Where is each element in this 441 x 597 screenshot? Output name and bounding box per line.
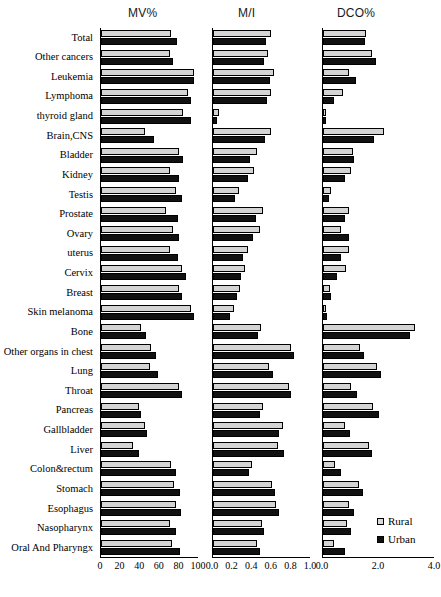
bar-urban bbox=[323, 528, 351, 535]
value-axis-dco: 0.02.04.0 bbox=[322, 560, 434, 576]
bar-rural bbox=[101, 481, 174, 488]
bar-rural bbox=[101, 344, 151, 351]
bar-urban bbox=[213, 254, 243, 261]
bar-row bbox=[101, 224, 198, 244]
bar-rural bbox=[323, 540, 334, 547]
bar-row bbox=[323, 87, 434, 107]
bar-rural bbox=[213, 187, 239, 194]
category-axis-labels: TotalOther cancersLeukemiaLymphomathyroi… bbox=[0, 28, 97, 558]
axis-tick-label: 100 bbox=[191, 560, 206, 571]
bar-row bbox=[101, 498, 198, 518]
bar-rural bbox=[101, 187, 176, 194]
axis-tick-label: 0.4 bbox=[245, 560, 258, 571]
bar-urban bbox=[323, 175, 345, 182]
bar-row bbox=[213, 244, 310, 264]
bar-rural bbox=[323, 50, 372, 57]
bar-urban bbox=[213, 38, 266, 45]
bar-row bbox=[213, 459, 310, 479]
bar-rural bbox=[323, 442, 369, 449]
axis-tick-label: 1.0 bbox=[304, 560, 317, 571]
bar-urban bbox=[323, 136, 374, 143]
bar-rural bbox=[323, 30, 366, 37]
bar-rural bbox=[101, 442, 133, 449]
bar-row bbox=[213, 185, 310, 205]
bar-rural bbox=[213, 128, 271, 135]
axis-tick-label: 60 bbox=[154, 560, 164, 571]
bar-rural bbox=[323, 501, 349, 508]
bar-rural bbox=[213, 501, 276, 508]
bar-row bbox=[101, 185, 198, 205]
bar-rural bbox=[213, 246, 248, 253]
bar-rural bbox=[323, 167, 351, 174]
bar-urban bbox=[101, 97, 191, 104]
bar-row bbox=[101, 67, 198, 87]
bar-urban bbox=[323, 58, 376, 65]
bar-urban bbox=[101, 528, 176, 535]
bar-urban bbox=[213, 411, 260, 418]
bar-row bbox=[101, 106, 198, 126]
bar-rural bbox=[323, 89, 343, 96]
bar-rural bbox=[101, 246, 170, 253]
bar-urban bbox=[213, 215, 256, 222]
legend-label-rural: Rural bbox=[388, 516, 412, 527]
bar-urban bbox=[213, 313, 230, 320]
bar-rural bbox=[101, 461, 171, 468]
bar-row bbox=[213, 126, 310, 146]
bar-urban bbox=[213, 391, 291, 398]
bar-rural bbox=[323, 69, 349, 76]
panel-title-mi: M/I bbox=[238, 6, 255, 20]
bar-rural bbox=[101, 69, 194, 76]
axis-tick-label: 0.0 bbox=[316, 560, 329, 571]
bar-row bbox=[323, 185, 434, 205]
category-label: Oral And Pharyngx bbox=[0, 538, 97, 558]
bar-row bbox=[101, 342, 198, 362]
bar-urban bbox=[101, 411, 141, 418]
bar-urban bbox=[101, 136, 154, 143]
bar-rural bbox=[101, 265, 182, 272]
bar-rural bbox=[213, 50, 268, 57]
plot-panel-mv bbox=[100, 28, 198, 558]
bar-rows-mi bbox=[213, 28, 310, 557]
bar-urban bbox=[323, 509, 354, 516]
bar-row bbox=[213, 67, 310, 87]
bar-rural bbox=[213, 167, 254, 174]
category-label: Total bbox=[0, 28, 97, 48]
category-label: thyroid gland bbox=[0, 107, 97, 127]
axis-tick-label: 4.0 bbox=[428, 560, 441, 571]
bar-row bbox=[323, 165, 434, 185]
bar-row bbox=[213, 224, 310, 244]
bar-urban bbox=[101, 313, 194, 320]
bar-row bbox=[213, 28, 310, 48]
bar-row bbox=[323, 106, 434, 126]
bar-row bbox=[101, 244, 198, 264]
axis-tick-label: 80 bbox=[173, 560, 183, 571]
bar-row bbox=[323, 283, 434, 303]
bar-urban bbox=[213, 97, 267, 104]
bar-row bbox=[213, 283, 310, 303]
category-label: uterus bbox=[0, 244, 97, 264]
bar-row bbox=[213, 400, 310, 420]
bar-urban bbox=[213, 136, 265, 143]
bar-rural bbox=[213, 403, 263, 410]
category-label: Colon&rectum bbox=[0, 460, 97, 480]
bar-row bbox=[213, 439, 310, 459]
bar-row bbox=[101, 28, 198, 48]
bar-rural bbox=[101, 422, 145, 429]
bar-row bbox=[213, 263, 310, 283]
bar-rural bbox=[101, 403, 139, 410]
category-label: Skin melanoma bbox=[0, 303, 97, 323]
bar-row bbox=[101, 420, 198, 440]
bar-rural bbox=[101, 109, 183, 116]
bar-row bbox=[101, 518, 198, 538]
bar-row bbox=[323, 498, 434, 518]
bar-rural bbox=[213, 540, 257, 547]
category-label: Brain,CNS bbox=[0, 126, 97, 146]
bar-row bbox=[213, 165, 310, 185]
bar-row bbox=[101, 361, 198, 381]
category-label: Lung bbox=[0, 362, 97, 382]
bar-rural bbox=[323, 481, 359, 488]
bar-row bbox=[213, 518, 310, 538]
bar-rural bbox=[323, 128, 384, 135]
bar-urban bbox=[101, 175, 179, 182]
bar-rural bbox=[101, 148, 179, 155]
